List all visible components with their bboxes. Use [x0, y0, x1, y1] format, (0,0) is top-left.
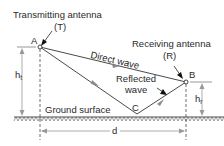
hr-label: hr: [195, 93, 202, 105]
point-b-label: B: [189, 69, 195, 80]
ht-subscript: t: [20, 74, 22, 81]
receiver-pointer-arrow-icon: [174, 66, 183, 79]
transmitting-antenna-label: Transmitting antenna: [13, 9, 102, 20]
distance-d-label: d: [112, 125, 117, 136]
point-b-receiver: [184, 80, 188, 84]
reflected-wave-label-line2: wave: [125, 84, 147, 95]
receiving-antenna-abbrev: (R): [163, 50, 176, 61]
reflected-label-pointer-arrow-icon: [157, 88, 167, 95]
receiving-antenna-label: Receiving antenna: [132, 38, 211, 49]
ground-hatching: [14, 117, 224, 121]
hr-subscript: r: [200, 98, 202, 105]
ground-surface: [14, 117, 224, 121]
point-a-label: A: [31, 35, 37, 46]
ht-label: ht: [15, 69, 22, 81]
reflected-wave-label-line1: Reflected: [116, 73, 156, 84]
ht-dimension: [17, 47, 36, 116]
transmitter-pointer-arrow-icon: [41, 31, 52, 46]
ground-surface-label: Ground surface: [45, 104, 110, 115]
transmitting-antenna-abbrev: (T): [54, 21, 66, 32]
point-c-label: C: [132, 102, 139, 113]
